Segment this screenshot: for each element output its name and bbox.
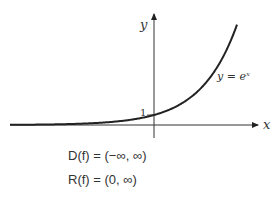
y-axis-label: y xyxy=(140,17,147,32)
range-text: R(f) = (0, ∞) xyxy=(68,172,137,187)
x-axis-label: x xyxy=(263,117,270,132)
function-label: y = eˣ xyxy=(217,70,250,83)
exp-curve xyxy=(10,25,237,125)
y-intercept-label: 1 xyxy=(140,107,146,118)
domain-text: D(f) = (−∞, ∞) xyxy=(68,148,146,163)
